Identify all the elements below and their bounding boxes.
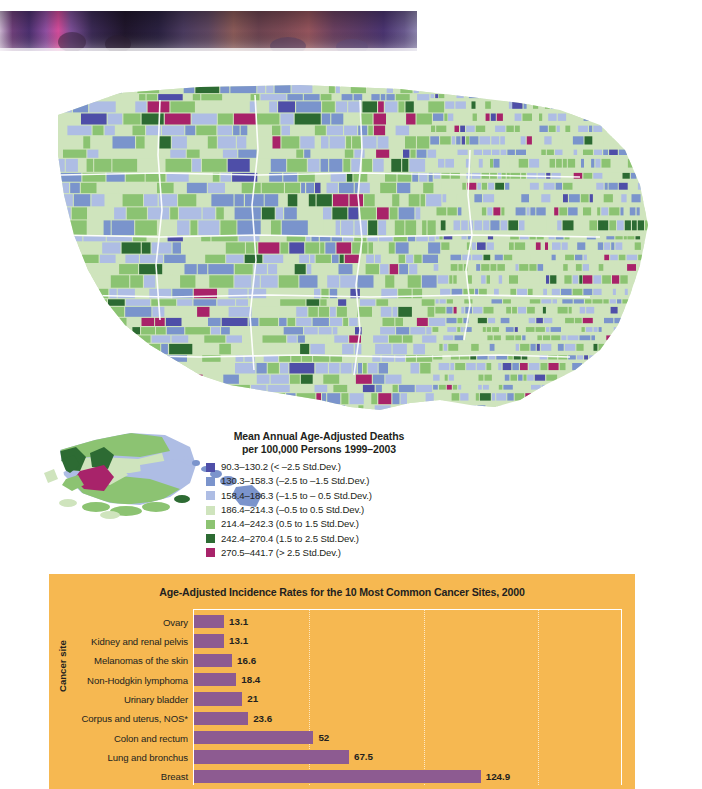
county-polygon <box>552 344 556 351</box>
county-polygon <box>300 289 313 298</box>
chart-bar-row: Urinary bladder21 <box>194 689 258 708</box>
county-polygon <box>520 363 528 370</box>
county-polygon <box>579 207 582 215</box>
county-polygon <box>141 327 155 334</box>
county-polygon <box>509 101 512 108</box>
county-polygon <box>529 318 535 323</box>
county-polygon <box>362 242 367 253</box>
county-polygon <box>411 94 416 100</box>
county-polygon <box>408 275 421 287</box>
county-polygon <box>366 255 374 263</box>
county-polygon <box>454 114 460 121</box>
county-polygon <box>87 159 94 172</box>
county-polygon <box>88 207 113 219</box>
chart-category-label: Lung and bronchus <box>108 751 188 762</box>
county-polygon <box>511 375 518 381</box>
county-polygon <box>242 183 261 193</box>
county-polygon <box>503 385 512 390</box>
county-polygon <box>417 318 428 326</box>
county-polygon <box>449 150 456 155</box>
county-polygon <box>479 375 484 381</box>
county-polygon <box>494 236 505 239</box>
county-polygon <box>619 183 628 190</box>
county-polygon <box>333 194 348 206</box>
county-polygon <box>385 275 394 287</box>
county-polygon <box>376 299 388 306</box>
county-polygon <box>619 159 627 168</box>
county-polygon <box>260 318 279 326</box>
county-polygon <box>291 355 301 362</box>
county-polygon <box>474 220 482 230</box>
county-polygon <box>332 207 347 219</box>
county-polygon <box>208 136 217 148</box>
county-polygon <box>579 183 590 190</box>
county-polygon <box>572 307 578 314</box>
county-polygon <box>323 207 331 219</box>
county-polygon <box>387 220 394 235</box>
county-polygon <box>235 363 255 374</box>
county-polygon <box>477 363 486 370</box>
county-polygon <box>371 94 379 100</box>
county-polygon <box>496 318 499 323</box>
county-polygon <box>386 94 394 100</box>
county-polygon <box>473 307 482 314</box>
county-polygon <box>57 114 80 125</box>
county-polygon <box>205 255 225 263</box>
county-polygon <box>196 101 208 112</box>
county-polygon <box>284 255 298 263</box>
county-polygon <box>399 255 405 263</box>
county-polygon <box>501 220 508 230</box>
county-polygon <box>392 194 399 206</box>
county-polygon <box>428 242 440 253</box>
county-polygon <box>428 307 435 317</box>
county-polygon <box>298 194 307 206</box>
county-polygon <box>441 220 446 230</box>
county-polygon <box>396 299 405 306</box>
county-polygon <box>374 114 386 125</box>
county-polygon <box>81 183 97 193</box>
county-polygon <box>440 136 451 144</box>
county-polygon <box>526 220 537 230</box>
county-polygon <box>208 264 233 274</box>
county-polygon <box>454 220 461 230</box>
county-polygon <box>479 289 487 295</box>
county-polygon <box>442 183 452 190</box>
county-polygon <box>400 194 407 206</box>
county-polygon <box>519 264 528 271</box>
county-polygon <box>288 318 296 326</box>
county-polygon <box>451 173 460 179</box>
county-polygon <box>594 327 598 332</box>
county-polygon <box>593 289 601 295</box>
county-polygon <box>98 183 118 193</box>
county-polygon <box>528 289 533 295</box>
county-polygon <box>327 275 339 287</box>
county-polygon <box>623 242 633 250</box>
county-polygon <box>347 299 352 306</box>
county-polygon <box>109 289 116 298</box>
county-polygon <box>226 242 245 253</box>
county-polygon <box>454 307 457 314</box>
county-polygon <box>496 344 507 351</box>
county-polygon <box>231 327 244 334</box>
county-polygon <box>376 385 382 392</box>
county-polygon <box>444 236 453 239</box>
county-polygon <box>417 114 432 125</box>
county-polygon <box>583 289 592 295</box>
county-polygon <box>413 344 425 354</box>
county-polygon <box>604 318 613 323</box>
county-polygon <box>354 94 363 100</box>
county-polygon <box>598 220 608 230</box>
county-polygon <box>279 150 296 158</box>
county-polygon <box>481 264 489 271</box>
county-polygon <box>261 275 278 287</box>
county-polygon <box>395 318 403 326</box>
county-polygon <box>525 183 529 190</box>
county-polygon <box>422 220 426 235</box>
county-polygon <box>426 327 431 334</box>
county-polygon <box>332 255 339 263</box>
county-polygon <box>488 183 494 190</box>
county-polygon <box>527 207 530 215</box>
county-polygon <box>604 194 613 202</box>
county-polygon <box>284 207 297 219</box>
county-polygon <box>478 114 485 121</box>
